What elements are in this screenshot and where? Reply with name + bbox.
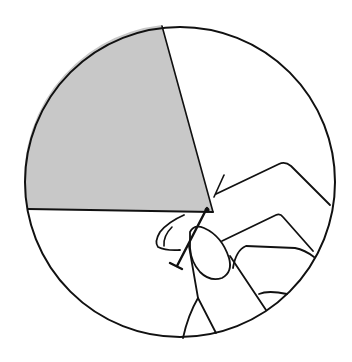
hand-finger-2 (222, 214, 313, 251)
wrist-line (259, 292, 287, 294)
pin-head (170, 263, 182, 269)
index-finger (156, 215, 184, 250)
hand-finger-3 (233, 246, 314, 268)
pinned-sector-diagram (0, 0, 352, 362)
hand-upper-outline (216, 163, 330, 205)
index-finger-inner (164, 227, 172, 246)
pin-tip (205, 208, 210, 213)
shaded-sector (24, 25, 213, 212)
palm-line (183, 298, 198, 338)
thumb-right-side (230, 256, 266, 310)
thumb-outline (190, 227, 230, 279)
